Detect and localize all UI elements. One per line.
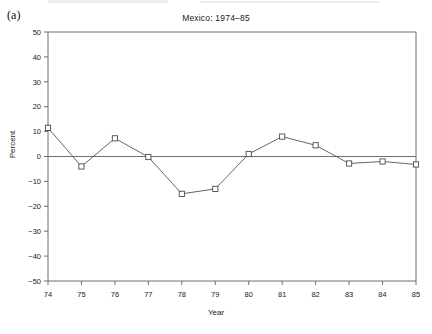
svg-text:40: 40 — [33, 53, 41, 62]
svg-text:79: 79 — [211, 290, 219, 299]
svg-text:80: 80 — [245, 290, 253, 299]
svg-text:10: 10 — [33, 127, 41, 136]
y-tick-labels: 50403020100−10−20−30−40−50 — [28, 28, 41, 286]
figure-panel: (a) Mexico: 1974–85 Percent Year 5040302… — [0, 0, 432, 334]
data-line — [48, 128, 416, 194]
svg-text:30: 30 — [33, 78, 41, 87]
svg-text:−50: −50 — [28, 277, 41, 286]
svg-text:77: 77 — [144, 290, 152, 299]
svg-text:−10: −10 — [28, 177, 41, 186]
y-axis-title: Percent — [8, 115, 17, 175]
svg-text:0: 0 — [37, 152, 41, 161]
svg-text:20: 20 — [33, 102, 41, 111]
svg-text:84: 84 — [378, 290, 386, 299]
scan-artifact-top — [48, 0, 168, 3]
svg-text:82: 82 — [311, 290, 319, 299]
line-chart-plot: 50403020100−10−20−30−40−50 7475767778798… — [0, 0, 432, 334]
svg-text:−20: −20 — [28, 202, 41, 211]
svg-text:83: 83 — [345, 290, 353, 299]
svg-text:78: 78 — [178, 290, 186, 299]
svg-text:50: 50 — [33, 28, 41, 37]
chart-title: Mexico: 1974–85 — [0, 13, 432, 23]
svg-text:−40: −40 — [28, 252, 41, 261]
svg-text:74: 74 — [44, 290, 52, 299]
data-markers — [45, 125, 418, 196]
svg-text:81: 81 — [278, 290, 286, 299]
scan-artifact-top-right — [200, 1, 380, 3]
x-axis-title: Year — [0, 308, 432, 317]
svg-text:−30: −30 — [28, 227, 41, 236]
x-tick-labels: 747576777879808182838485 — [44, 290, 420, 299]
svg-text:76: 76 — [111, 290, 119, 299]
svg-text:85: 85 — [412, 290, 420, 299]
tick-marks-layer — [44, 32, 416, 285]
svg-text:75: 75 — [77, 290, 85, 299]
